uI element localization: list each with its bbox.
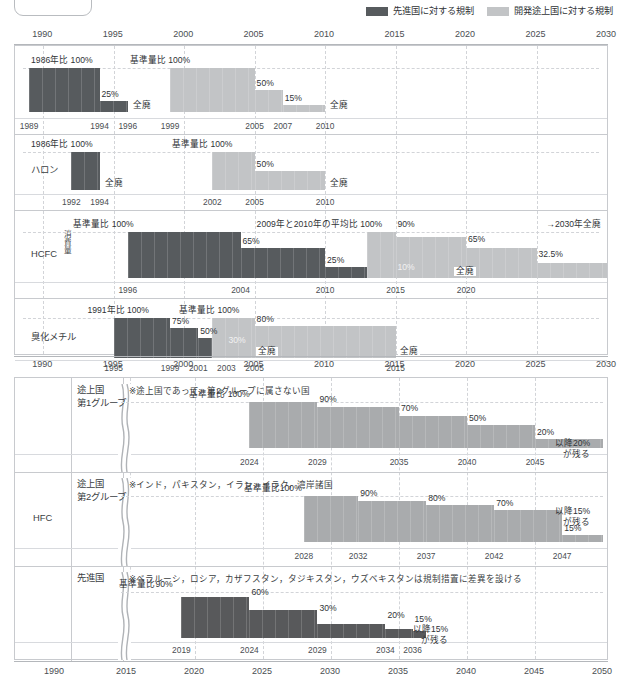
value-label: 80% bbox=[257, 315, 274, 324]
value-label: 50% bbox=[257, 160, 274, 169]
value-label: 1986年比 100% bbox=[31, 56, 93, 65]
row-note-developed: ※ベラルーシ，ロシア，カザフスタン，タジキスタン，ウズベキスタンは規制措置に差異… bbox=[129, 572, 522, 584]
year-tick: 2004 bbox=[231, 285, 250, 295]
row-separator bbox=[15, 298, 607, 299]
reference-line bbox=[23, 68, 599, 69]
axis-tick: 2020 bbox=[184, 666, 204, 676]
year-tick: 2034 bbox=[376, 645, 395, 655]
axis-tick: 2005 bbox=[244, 359, 264, 369]
axis-tick: 2030 bbox=[320, 666, 340, 676]
chart-bar bbox=[399, 416, 467, 448]
axis-tick: 2050 bbox=[592, 666, 612, 676]
year-tick: 1999 bbox=[161, 121, 180, 131]
tail-note-developing-group2: 以降15% が残る bbox=[555, 506, 590, 527]
chart-bar bbox=[562, 535, 603, 542]
chart-bar bbox=[249, 402, 317, 448]
value-label: 25% bbox=[102, 90, 119, 99]
year-tick: 2002 bbox=[203, 197, 222, 207]
value-label: 50% bbox=[200, 327, 217, 336]
row-label-developed: 先進国 bbox=[77, 572, 104, 585]
tail-note-developed: 以降15% が残る bbox=[413, 624, 448, 645]
gridline bbox=[466, 46, 467, 354]
value-label: 30% bbox=[319, 604, 336, 613]
reference-line bbox=[121, 592, 603, 593]
value-label: 基準量比100% bbox=[244, 484, 302, 493]
row-separator bbox=[15, 472, 607, 473]
reference-line bbox=[121, 402, 603, 403]
year-tick: 2015 bbox=[386, 285, 405, 295]
value-label: 90% bbox=[360, 489, 377, 498]
year-tick: 1994 bbox=[90, 121, 109, 131]
axis-tick: 1995 bbox=[103, 359, 123, 369]
year-tick: 2035 bbox=[390, 457, 409, 467]
axis-tick: 2025 bbox=[252, 666, 272, 676]
row-label-developing-group2: 途上国 第2グループ bbox=[77, 478, 126, 503]
value-label: 32.5% bbox=[539, 250, 563, 259]
year-tick: 1994 bbox=[90, 197, 109, 207]
value-label: 50% bbox=[257, 79, 274, 88]
value-label: 1986年比 100% bbox=[31, 140, 93, 149]
value-label: 20% bbox=[537, 428, 554, 437]
value-label: 基準量比 100% bbox=[130, 56, 190, 65]
bottom-panel: HFC途上国 第1グループ※途上国であって，第2グループに属さない国基準量比 1… bbox=[14, 377, 608, 660]
axis-tick: 2025 bbox=[526, 359, 546, 369]
value-label-zenpai: 全廃 bbox=[131, 101, 153, 110]
gutter-separator bbox=[71, 378, 72, 661]
chart-bar bbox=[537, 263, 607, 278]
year-tick: 1996 bbox=[118, 121, 137, 131]
year-tick: 2045 bbox=[526, 457, 545, 467]
chart-bar bbox=[249, 610, 317, 638]
reference-line bbox=[23, 232, 599, 233]
value-label-zenpai: 全廃 bbox=[328, 179, 350, 188]
year-tick: 2010 bbox=[316, 121, 335, 131]
value-label-zenpai: 全廃 bbox=[454, 267, 476, 276]
chart-bar bbox=[494, 510, 562, 542]
row-separator bbox=[15, 566, 607, 567]
value-label: 基準量比 100% bbox=[172, 140, 232, 149]
row-tick-separator bbox=[15, 548, 607, 549]
axis-line bbox=[14, 356, 608, 357]
row-label-methyl-bromide: 臭化メチル bbox=[31, 331, 76, 344]
row-tick-separator bbox=[15, 282, 607, 283]
tail-note-developing-group1: 以降20% が残る bbox=[555, 438, 590, 459]
value-label: 基準量比 100% bbox=[189, 390, 249, 399]
chart-bar bbox=[426, 505, 494, 542]
value-label: 2009年と2010年の平均比 100% bbox=[257, 220, 383, 229]
axis-tick: 2015 bbox=[385, 359, 405, 369]
row-tick-separator bbox=[15, 454, 607, 455]
axis-tick: 2015 bbox=[116, 666, 136, 676]
year-tick: 2047 bbox=[553, 551, 572, 561]
row-label-halon: ハロン bbox=[31, 164, 58, 177]
chart-bar bbox=[212, 152, 254, 190]
year-tick: 2010 bbox=[316, 197, 335, 207]
value-label: 基準量比90% bbox=[119, 580, 172, 589]
year-tick: 2007 bbox=[273, 121, 292, 131]
chart-bar bbox=[114, 318, 170, 358]
year-tick: 2024 bbox=[240, 457, 259, 467]
year-tick: 2036 bbox=[403, 645, 422, 655]
top-panel: CFC5種1986年比 100%基準量比 100%25%全廃50%15%全廃19… bbox=[14, 45, 608, 355]
year-tick: 2029 bbox=[308, 645, 327, 655]
value-label: 60% bbox=[251, 588, 268, 597]
chart-bar bbox=[317, 407, 399, 448]
chart-bar bbox=[358, 501, 426, 542]
value-label: 90% bbox=[398, 220, 415, 229]
row-note-developing-group2: ※インド，パキスタン，イラン，イラク，湾岸諸国 bbox=[129, 478, 333, 490]
top-axis-line bbox=[14, 44, 608, 45]
value-label: 15% bbox=[285, 94, 302, 103]
axis-tick: 2020 bbox=[455, 359, 475, 369]
value-label-zenpai: 全廃 bbox=[328, 101, 350, 110]
chart-bar bbox=[100, 101, 128, 112]
value-label: 20% bbox=[387, 611, 404, 620]
row-separator bbox=[15, 134, 607, 135]
year-tick: 2028 bbox=[294, 551, 313, 561]
reference-line bbox=[23, 152, 599, 153]
axis-line bbox=[14, 661, 608, 662]
axis-tick: 2030 bbox=[596, 359, 616, 369]
chart-bar bbox=[255, 171, 325, 190]
value-label: 基準量比 100% bbox=[179, 306, 239, 315]
value-label: 1991年比 100% bbox=[87, 306, 149, 315]
axis-tick: 2000 bbox=[173, 359, 193, 369]
chart-bar bbox=[304, 496, 358, 542]
chart-bar bbox=[241, 248, 326, 278]
